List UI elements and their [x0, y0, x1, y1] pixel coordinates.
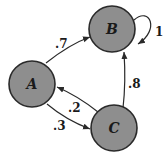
- edge-a-to-b: [46, 37, 90, 63]
- markov-diagram: A B C .7 1 .8 .2 .3: [0, 0, 167, 159]
- edge-label-b-b: 1: [155, 25, 163, 39]
- edge-b-self-loop: [134, 16, 151, 44]
- node-c: C: [91, 105, 137, 151]
- edge-label-c-b: .8: [128, 77, 141, 91]
- node-a-label: A: [25, 76, 38, 92]
- edge-label-a-b: .7: [55, 37, 68, 51]
- node-a: A: [9, 61, 55, 107]
- edge-label-a-c: .3: [53, 119, 66, 133]
- edge-c-to-b: [123, 52, 125, 108]
- edge-label-c-a: .2: [68, 101, 81, 115]
- node-c-label: C: [108, 120, 119, 136]
- node-b-label: B: [105, 21, 118, 37]
- node-b: B: [89, 6, 135, 52]
